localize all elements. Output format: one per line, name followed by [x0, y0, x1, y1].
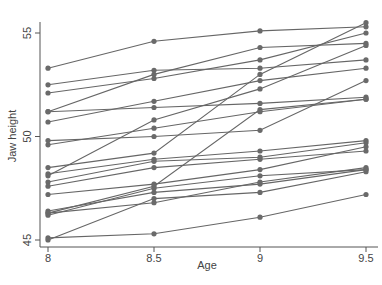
data-point-marker	[151, 184, 156, 189]
data-point-marker	[151, 231, 156, 236]
x-tick-label: 9.5	[358, 252, 373, 264]
y-tick-label: 45	[21, 234, 33, 246]
data-point-marker	[257, 66, 262, 71]
data-point-marker	[45, 237, 50, 242]
series-line	[48, 81, 366, 141]
series-group	[45, 20, 368, 242]
data-point-marker	[151, 134, 156, 139]
data-point-marker	[363, 144, 368, 149]
series-4	[45, 192, 368, 241]
series-5	[45, 148, 368, 188]
x-tick-label: 9	[257, 252, 263, 264]
data-point-marker	[363, 43, 368, 48]
data-point-marker	[45, 165, 50, 170]
series-line	[48, 33, 366, 93]
data-point-marker	[151, 126, 156, 131]
data-point-marker	[257, 179, 262, 184]
data-point-marker	[257, 72, 262, 77]
x-tick-label: 8	[45, 252, 51, 264]
series-line	[48, 45, 366, 175]
data-point-marker	[363, 78, 368, 83]
data-point-marker	[45, 82, 50, 87]
data-point-marker	[151, 105, 156, 110]
data-point-marker	[45, 171, 50, 176]
data-point-marker	[257, 215, 262, 220]
data-point-marker	[45, 211, 50, 216]
data-point-marker	[257, 190, 262, 195]
data-point-marker	[257, 45, 262, 50]
data-point-marker	[45, 119, 50, 124]
data-point-marker	[257, 78, 262, 83]
data-point-marker	[45, 109, 50, 114]
series-8	[45, 78, 368, 143]
data-point-marker	[45, 192, 50, 197]
y-axis-ticks: 455055	[21, 27, 40, 246]
data-point-marker	[257, 157, 262, 162]
data-point-marker	[151, 165, 156, 170]
data-point-marker	[363, 97, 368, 102]
data-point-marker	[45, 90, 50, 95]
series-line	[48, 147, 366, 195]
data-point-marker	[257, 101, 262, 106]
data-point-marker	[45, 66, 50, 71]
data-point-marker	[151, 99, 156, 104]
data-point-marker	[363, 24, 368, 29]
data-point-marker	[151, 76, 156, 81]
data-point-marker	[151, 117, 156, 122]
series-line	[48, 27, 366, 68]
x-axis-title: Age	[197, 259, 217, 271]
data-point-marker	[257, 57, 262, 62]
data-point-marker	[257, 86, 262, 91]
x-tick-label: 8.5	[146, 252, 161, 264]
series-line	[48, 60, 366, 85]
y-tick-label: 50	[21, 130, 33, 142]
data-point-marker	[257, 107, 262, 112]
data-point-marker	[151, 157, 156, 162]
y-axis-title: Jaw height	[6, 110, 18, 163]
data-point-marker	[45, 142, 50, 147]
data-point-marker	[151, 39, 156, 44]
series-line	[48, 43, 366, 111]
series-6	[45, 57, 368, 87]
data-point-marker	[363, 30, 368, 35]
data-point-marker	[257, 28, 262, 33]
data-point-marker	[257, 148, 262, 153]
series-10	[45, 169, 368, 243]
series-line	[48, 99, 366, 145]
y-tick-label: 55	[21, 27, 33, 39]
data-point-marker	[257, 167, 262, 172]
data-point-marker	[363, 167, 368, 172]
data-point-marker	[363, 66, 368, 71]
data-point-marker	[257, 128, 262, 133]
data-point-marker	[45, 184, 50, 189]
data-point-marker	[363, 138, 368, 143]
jaw-height-spaghetti-plot: 455055 88.599.5 Age Jaw height	[0, 0, 382, 285]
data-point-marker	[257, 173, 262, 178]
data-point-marker	[151, 196, 156, 201]
data-point-marker	[151, 151, 156, 156]
data-point-marker	[363, 192, 368, 197]
data-point-marker	[363, 57, 368, 62]
